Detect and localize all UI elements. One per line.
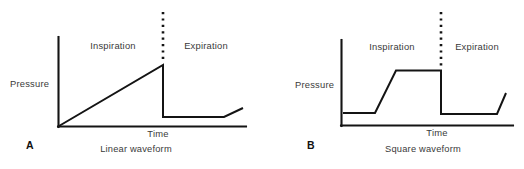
panel-b-x-axis-label: Time (426, 127, 447, 138)
panel-b-letter: B (307, 139, 315, 151)
panel-b-waveform (343, 71, 506, 115)
panel-b-inspiration-label: Inspiration (369, 41, 414, 52)
respiratory-waveform-figure: Pressure Inspiration Expiration Time A L… (0, 0, 524, 169)
panel-b-caption: Square waveform (385, 144, 461, 154)
panel-a-caption: Linear waveform (100, 144, 172, 154)
panel-a-expiration-label: Expiration (184, 40, 228, 51)
panel-a-x-axis-label: Time (147, 128, 168, 139)
panel-b-expiration-label: Expiration (455, 41, 499, 52)
panel-a-waveform (59, 65, 243, 126)
panel-a-graph (58, 12, 246, 127)
panel-b-y-axis-label: Pressure (295, 79, 334, 90)
panel-b-graph (341, 12, 513, 126)
panel-a-letter: A (26, 139, 34, 151)
panel-a-y-axis-label: Pressure (10, 78, 49, 89)
panel-a-inspiration-label: Inspiration (90, 40, 135, 51)
